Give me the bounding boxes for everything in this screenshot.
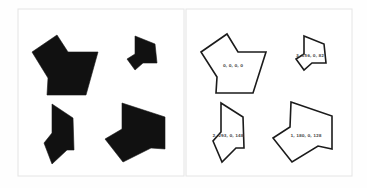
shape-label: 0, 0, 0, 0 <box>223 63 243 68</box>
figure: 0, 0, 0, 03, 156, 0, 822, 293, 0, 1481, … <box>0 0 367 188</box>
shape-label: 2, 293, 0, 148 <box>212 133 243 138</box>
shape-label: 3, 156, 0, 82 <box>296 53 324 58</box>
outline-panel: 0, 0, 0, 03, 156, 0, 822, 293, 0, 1481, … <box>186 9 352 176</box>
filled-panel <box>18 9 184 176</box>
panels-layer: 0, 0, 0, 03, 156, 0, 822, 293, 0, 1481, … <box>18 9 352 176</box>
panel-frame <box>18 9 184 176</box>
figure-canvas: 0, 0, 0, 03, 156, 0, 822, 293, 0, 1481, … <box>0 0 367 188</box>
shape-label: 1, 180, 0, 128 <box>290 133 321 138</box>
panel-frame <box>186 9 352 176</box>
